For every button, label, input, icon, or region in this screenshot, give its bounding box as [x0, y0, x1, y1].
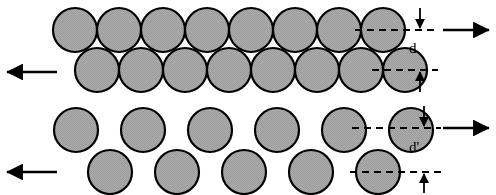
top-row-dilated [54, 108, 433, 152]
particle-circle [295, 48, 339, 92]
particle-circle [119, 48, 163, 92]
particle-circle [53, 8, 97, 52]
packing-diagram-svg [0, 0, 496, 195]
particle-circle [222, 150, 266, 194]
particle-circle [141, 8, 185, 52]
particle-circle [251, 48, 295, 92]
dilatancy-figure: d d' [0, 0, 496, 195]
particle-circle [88, 150, 132, 194]
particle-circle [188, 108, 232, 152]
particle-circle [155, 150, 199, 194]
particle-circle [289, 150, 333, 194]
particle-circle [163, 48, 207, 92]
particle-circle [255, 108, 299, 152]
spacing-label-d-prime: d' [409, 140, 419, 155]
particle-circle [75, 48, 119, 92]
top-row-dense [53, 8, 405, 52]
particle-circle [121, 108, 165, 152]
particle-circle [54, 108, 98, 152]
particle-circle [322, 108, 366, 152]
particle-circle [317, 8, 361, 52]
particle-circle [97, 8, 141, 52]
particle-circle [185, 8, 229, 52]
spacing-label-d: d [409, 41, 417, 56]
particle-circle [273, 8, 317, 52]
particle-circle [229, 8, 273, 52]
particle-circle [207, 48, 251, 92]
